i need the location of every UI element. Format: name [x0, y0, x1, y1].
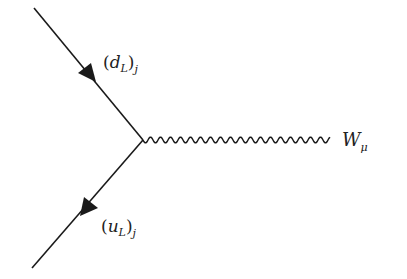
outgoing-quark-label: (uL)j [101, 216, 137, 240]
w-boson-label: Wμ [342, 129, 368, 154]
incoming-quark-label: (dL)j [103, 52, 138, 76]
boson-wavy-line [143, 137, 330, 143]
incoming-fermion-arrow-icon [78, 63, 96, 82]
outgoing-fermion-arrow-icon [80, 197, 98, 216]
feynman-diagram: (dL)j (uL)j Wμ [0, 0, 407, 279]
